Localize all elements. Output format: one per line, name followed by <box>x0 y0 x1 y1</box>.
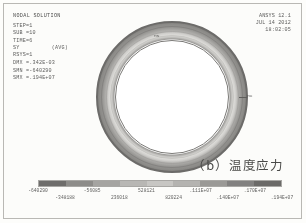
colorbar-tick-1: -640290 <box>28 188 48 193</box>
min-location-label: MN <box>154 33 159 38</box>
colorbar-band-6 <box>173 181 200 186</box>
colorbar-tick-10: .194E+07 <box>271 195 293 200</box>
ansys-header-block: ANSYS 12.1 JUL 14 2012 18:02:05 <box>256 13 291 34</box>
colorbar-tick-6: 820224 <box>165 195 182 200</box>
colorbar-band-3 <box>93 181 120 186</box>
colorbar-band-2 <box>66 181 93 186</box>
colorbar-band-9 <box>254 181 281 186</box>
annulus-model <box>96 21 248 173</box>
info-line-time: TIME=6 <box>13 38 105 45</box>
colorbar-band-5 <box>147 181 174 186</box>
plot-frame: NODAL SOLUTION STEP=1 SUB =10 TIME=6 SY … <box>3 3 302 219</box>
ring-inner-boundary <box>115 40 229 154</box>
nodal-solution-info-block: NODAL SOLUTION STEP=1 SUB =10 TIME=6 SY … <box>13 13 105 82</box>
info-line-dmx: DMX =.342E-03 <box>13 60 105 67</box>
max-location-marker <box>239 97 247 98</box>
info-line-smx: SMX =.194E+07 <box>13 75 105 82</box>
ansys-time: 18:02:05 <box>256 27 291 34</box>
colorbar-band-8 <box>227 181 254 186</box>
ansys-date: JUL 14 2012 <box>256 20 291 27</box>
info-title: NODAL SOLUTION <box>13 13 105 20</box>
colorbar-band-7 <box>200 181 227 186</box>
colorbar-band-1 <box>39 181 66 186</box>
colorbar-tick-2: -348188 <box>55 195 75 200</box>
colorbar-tick-3: -56085 <box>84 188 101 193</box>
figure-caption: （b）温度应力 <box>192 155 284 174</box>
colorbar-tick-8: .140E+07 <box>217 195 239 200</box>
ansys-version: ANSYS 12.1 <box>256 13 291 20</box>
colorbar-band-4 <box>120 181 147 186</box>
info-line-smn: SMN =-640290 <box>13 68 105 75</box>
plot-area: NODAL SOLUTION STEP=1 SUB =10 TIME=6 SY … <box>4 4 301 218</box>
colorbar-tick-7: .111E+07 <box>189 188 211 193</box>
colorbar-tick-5: 528121 <box>138 188 155 193</box>
contour-legend: -640290-348188-56085236018528121820224.1… <box>38 180 282 202</box>
colorbar-tick-labels: -640290-348188-56085236018528121820224.1… <box>38 188 282 202</box>
info-line-component: SY (AVG) <box>13 45 105 52</box>
colorbar-gradient <box>38 180 282 187</box>
max-location-label: MX <box>247 93 252 98</box>
info-line-sub: SUB =10 <box>13 30 105 37</box>
info-line-rsys: RSYS=1 <box>13 52 105 59</box>
colorbar-tick-4: 236018 <box>111 195 128 200</box>
colorbar-tick-9: .170E+07 <box>244 188 266 193</box>
info-line-step: STEP=1 <box>13 23 105 30</box>
ansys-plot-screenshot: NODAL SOLUTION STEP=1 SUB =10 TIME=6 SY … <box>0 0 306 223</box>
